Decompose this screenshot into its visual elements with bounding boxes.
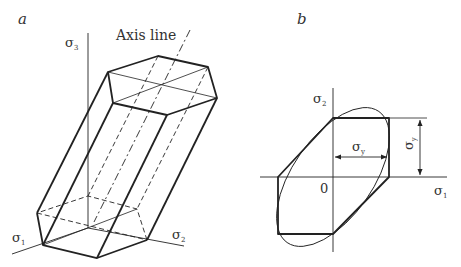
bottom-hexagon-back [37,196,147,240]
prism-hidden-edge-1 [88,56,158,196]
axis-line-label: Axis line [115,27,176,43]
top-diagonal-2 [113,67,208,103]
panel-b: b σ2 σ1 0 σy σy [254,10,447,265]
top-hexagon [108,56,217,115]
sigma1-label-b: σ1 [434,183,447,200]
sigma-y-horizontal-label: σy [352,139,365,156]
sigma1-label: σ1 [12,230,25,247]
tresca-hexagon [278,118,389,234]
prism-edge-1 [37,72,108,213]
top-diagonal-1 [108,72,217,98]
sigma2-label: σ2 [172,227,185,244]
panel-b-label: b [297,10,307,28]
sigma3-label: σ3 [65,35,78,52]
prism-edge-2 [43,103,113,245]
panel-a: a σ3 σ1 σ2 Axis line [12,10,217,258]
hydrostatic-axis-line [94,30,190,222]
yield-surface-figure: a σ3 σ1 σ2 Axis line b [0,0,461,267]
origin-label: 0 [320,181,328,196]
sigma-y-vertical-label: σy [401,137,418,150]
sigma2-label-b: σ2 [313,91,326,108]
panel-a-label: a [18,10,27,28]
